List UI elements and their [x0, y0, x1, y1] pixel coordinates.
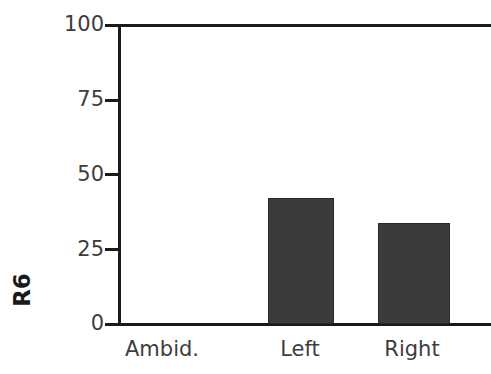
plot-area [121, 27, 491, 324]
y-tick-label-25: 25 [48, 239, 104, 260]
y-tick-25: 25 [48, 239, 104, 260]
y-tick-0: 0 [48, 313, 104, 334]
x-tick-label-left: Left [258, 337, 342, 361]
bar-left [268, 198, 334, 324]
y-tick-label-75: 75 [48, 89, 104, 110]
bar-chart: R6 100 75 50 25 0 Ambid. Left Right [0, 0, 491, 374]
y-tick-label-0: 0 [48, 313, 104, 334]
y-tick-label-100: 100 [48, 14, 104, 35]
bar-right [378, 223, 450, 324]
x-tick-label-right: Right [370, 337, 454, 361]
y-tick-100: 100 [48, 14, 104, 35]
y-tick-75: 75 [48, 89, 104, 110]
y-tick-label-50: 50 [48, 164, 104, 185]
y-axis-title: R6 [9, 260, 35, 320]
x-tick-label-ambid: Ambid. [120, 337, 204, 361]
y-tick-50: 50 [48, 164, 104, 185]
